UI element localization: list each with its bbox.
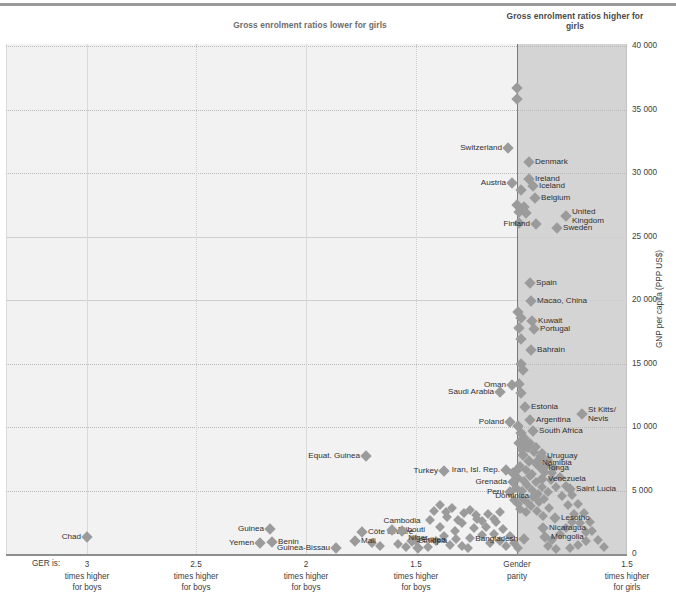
data-point-marker bbox=[465, 533, 475, 543]
data-point-label: Iran, Isl. Rep. bbox=[452, 465, 500, 474]
data-point-label: Nicaragua bbox=[549, 523, 586, 532]
data-point-marker bbox=[495, 507, 505, 517]
data-point-label: Sweden bbox=[563, 223, 592, 232]
y-gridline bbox=[6, 364, 627, 366]
data-point-marker bbox=[330, 542, 341, 553]
y-tick-label: 5 000 bbox=[632, 487, 653, 495]
data-point-label: Belgium bbox=[541, 193, 570, 202]
data-point-label: Austria bbox=[481, 178, 506, 187]
data-point-marker bbox=[438, 465, 449, 476]
data-point-marker bbox=[498, 524, 508, 534]
y-tick-label: 0 bbox=[632, 550, 637, 558]
plot-area: SwitzerlandDenmarkIrelandIcelandAustriaB… bbox=[6, 44, 627, 554]
data-point-label: Lesotho bbox=[561, 513, 590, 522]
data-point-label: Bangladesh bbox=[475, 534, 518, 543]
data-point-marker bbox=[349, 535, 360, 546]
data-point-label: Equat. Guinea bbox=[308, 451, 360, 460]
data-point-label: St Kitts/Nevis bbox=[588, 405, 616, 423]
data-point-label: Venezuela bbox=[548, 474, 586, 483]
x-tick-label: Genderparity bbox=[457, 559, 577, 582]
y-tick-label: 15 000 bbox=[632, 360, 657, 368]
data-point-marker bbox=[463, 543, 473, 553]
data-point-label: Chad bbox=[62, 532, 81, 541]
data-point-marker bbox=[506, 177, 517, 188]
data-point-label: Yemen bbox=[229, 538, 254, 547]
data-point-label: Saint Lucia bbox=[576, 484, 616, 493]
x-tick-label: 1.5times higherfor girls bbox=[567, 559, 676, 594]
data-point-marker bbox=[360, 450, 371, 461]
heading-higher-for-girls: Gross enrolment ratios higher for girls bbox=[505, 11, 645, 31]
data-point-label: Grenada bbox=[476, 477, 508, 486]
x-tick-label: 3times higherfor boys bbox=[27, 559, 147, 594]
y-tick-label: 25 000 bbox=[632, 233, 657, 241]
data-point-marker bbox=[425, 515, 435, 525]
data-point-label: Turkey bbox=[414, 466, 438, 475]
x-tick-label: 2times higherfor boys bbox=[246, 559, 366, 594]
data-point-label: Mongolia bbox=[551, 532, 584, 541]
data-point-label: Guinea bbox=[238, 524, 264, 533]
x-tick-label: 2.5times higherfor boys bbox=[136, 559, 256, 594]
data-point-label: Iceland bbox=[539, 181, 565, 190]
y-gridline bbox=[6, 237, 627, 239]
x-gridline bbox=[196, 44, 198, 554]
data-point-label: Spain bbox=[536, 278, 557, 287]
data-point-marker bbox=[502, 142, 513, 153]
data-point-label: Bahrain bbox=[537, 345, 565, 354]
data-point-label: Poland bbox=[479, 417, 504, 426]
data-point-label: Switzerland bbox=[460, 143, 502, 152]
x-gridline bbox=[87, 44, 88, 554]
x-gridline bbox=[416, 44, 418, 554]
data-point-label: Dominica bbox=[495, 491, 529, 500]
y-gridline bbox=[6, 173, 627, 175]
x-axis-line bbox=[6, 554, 627, 556]
heading-lower-for-girls: Gross enrolment ratios lower for girls bbox=[150, 20, 470, 30]
plot-right-edge bbox=[626, 44, 627, 554]
y-gridline bbox=[6, 110, 627, 112]
data-point-label: Niger bbox=[408, 533, 427, 542]
data-point-label: Denmark bbox=[535, 157, 568, 166]
data-point-marker bbox=[264, 523, 275, 534]
data-point-label: Estonia bbox=[531, 402, 558, 411]
data-point-label: Cambodia bbox=[384, 516, 421, 525]
x-gridline bbox=[306, 44, 307, 554]
top-rule bbox=[0, 3, 676, 6]
data-point-label: Macao, China bbox=[537, 296, 587, 305]
data-point-label: Mali bbox=[361, 536, 376, 545]
data-point-marker bbox=[469, 523, 479, 533]
data-point-label: Finland bbox=[503, 219, 530, 228]
data-point-label: Guinea-Bissau bbox=[277, 543, 330, 552]
y-axis-label: GNP per capita (PPP US$) bbox=[655, 250, 664, 348]
data-point-label: Saudi Arabia bbox=[448, 387, 494, 396]
data-point-label: Portugal bbox=[540, 324, 570, 333]
data-point-label: Tonga bbox=[547, 463, 569, 472]
data-point-label: Argentina bbox=[536, 415, 571, 424]
y-tick-label: 30 000 bbox=[632, 169, 657, 177]
data-point-marker bbox=[254, 537, 265, 548]
plot-left-edge bbox=[6, 44, 7, 554]
chart-root: Gross enrolment ratios lower for girls G… bbox=[0, 0, 676, 597]
data-point-label: South Africa bbox=[539, 426, 583, 435]
y-gridline bbox=[6, 46, 627, 48]
y-tick-label: 10 000 bbox=[632, 423, 657, 431]
y-tick-label: 35 000 bbox=[632, 106, 657, 114]
y-tick-label: 20 000 bbox=[632, 296, 657, 304]
data-point-marker bbox=[81, 531, 92, 542]
y-tick-label: 40 000 bbox=[632, 42, 657, 50]
